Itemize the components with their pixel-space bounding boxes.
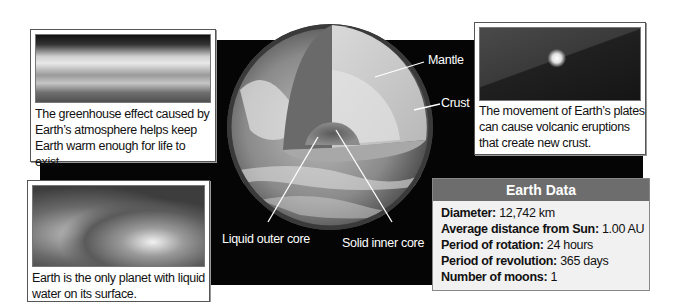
volcano-card: The movement of Earth’s plates can cause… bbox=[474, 22, 646, 155]
atmosphere-photo bbox=[35, 34, 211, 103]
earth-data-title: Earth Data bbox=[433, 179, 649, 201]
ocean-wave-photo bbox=[32, 185, 205, 267]
earth-data-box: Earth Data Diameter: 12,742 km Average d… bbox=[432, 178, 650, 291]
mantle-label: Mantle bbox=[428, 53, 464, 67]
data-row-revolution: Period of revolution: 365 days bbox=[433, 253, 649, 269]
volcano-photo bbox=[479, 27, 641, 101]
ocean-card: Earth is the only planet with liquid wat… bbox=[27, 180, 210, 302]
crust-label: Crust bbox=[441, 96, 469, 110]
data-row-distance: Average distance from Sun: 1.00 AU bbox=[433, 221, 649, 237]
data-row-diameter: Diameter: 12,742 km bbox=[433, 205, 649, 221]
data-row-moons: Number of moons: 1 bbox=[433, 269, 649, 285]
solid-inner-core-label: Solid inner core bbox=[342, 236, 424, 250]
atmosphere-caption: The greenhouse effect caused by Earth’s … bbox=[35, 106, 215, 170]
ocean-caption: Earth is the only planet with liquid wat… bbox=[32, 270, 205, 302]
volcano-caption: The movement of Earth’s plates can cause… bbox=[479, 103, 645, 151]
earth-data-rows: Diameter: 12,742 km Average distance fro… bbox=[433, 201, 649, 285]
atmosphere-card: The greenhouse effect caused by Earth’s … bbox=[30, 29, 216, 162]
globe-sphere bbox=[227, 24, 433, 230]
liquid-outer-core-label: Liquid outer core bbox=[222, 232, 310, 246]
data-row-rotation: Period of rotation: 24 hours bbox=[433, 237, 649, 253]
